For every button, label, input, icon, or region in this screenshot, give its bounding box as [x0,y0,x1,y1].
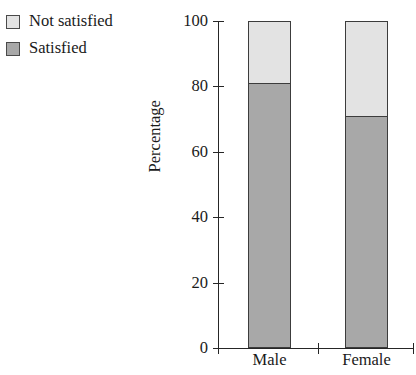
bar-segment-not-satisfied-female [345,21,388,117]
y-tick-100 [213,21,224,22]
chart-container: Not satisfied Satisfied 020406080100 Mal… [0,0,416,375]
y-tick-80 [213,86,224,87]
bar-segment-not-satisfied-male [248,21,291,84]
y-tick-label-60: 60 [162,144,208,161]
bar-segment-satisfied-male [248,83,291,348]
x-tick-label-female: Female [317,352,416,369]
y-tick-label-100: 100 [162,13,208,30]
y-tick-20 [213,283,224,284]
plot-area: 020406080100 MaleFemale Percentage [0,0,416,375]
y-tick-label-0: 0 [162,340,208,357]
y-tick-label-40: 40 [162,209,208,226]
bar-segment-satisfied-female [345,116,388,348]
y-axis-line [218,21,219,349]
x-tick-label-male: Male [220,352,320,369]
y-tick-40 [213,217,224,218]
y-axis-title: Percentage [147,71,164,201]
y-tick-label-20: 20 [162,275,208,292]
y-tick-label-80: 80 [162,78,208,95]
y-tick-60 [213,152,224,153]
x-axis-line [218,348,414,349]
